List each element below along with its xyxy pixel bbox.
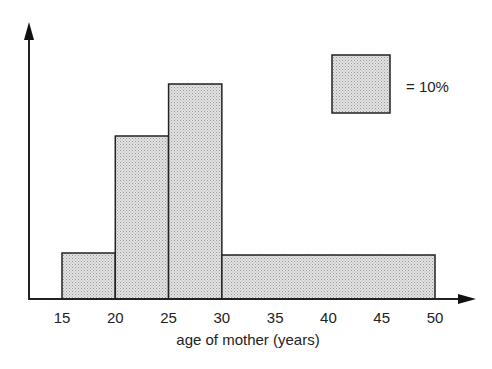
y-axis-arrow-icon [24,22,34,40]
legend-swatch [332,55,390,113]
legend: = 10% [332,55,449,113]
histogram-bar-15-20 [62,253,115,299]
x-axis-arrow-icon [458,294,476,304]
histogram-bars [62,84,435,299]
x-tick-label: 45 [373,309,390,326]
histogram-chart: 1520253035404550 age of mother (years) =… [0,0,492,369]
x-tick-label: 50 [427,309,444,326]
x-tick-labels: 1520253035404550 [54,309,444,326]
histogram-bar-20-25 [115,136,168,299]
x-axis-label: age of mother (years) [176,331,319,348]
legend-label: = 10% [406,78,449,95]
x-tick-label: 15 [54,309,71,326]
histogram-bar-30-50 [222,255,435,299]
histogram-bar-25-30 [169,84,222,299]
x-tick-label: 20 [107,309,124,326]
x-tick-label: 40 [320,309,337,326]
x-tick-label: 35 [267,309,284,326]
x-tick-label: 25 [160,309,177,326]
x-tick-label: 30 [214,309,231,326]
